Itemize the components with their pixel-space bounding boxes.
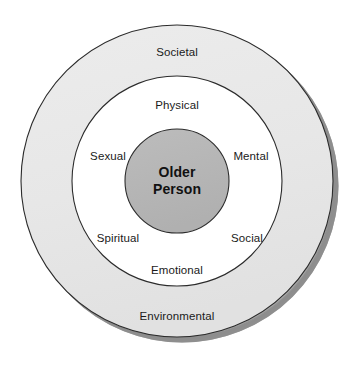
core-circle	[125, 129, 229, 233]
diagram-canvas	[0, 0, 355, 365]
concentric-circles-diagram: Societal Environmental Physical Sexual M…	[0, 0, 355, 365]
